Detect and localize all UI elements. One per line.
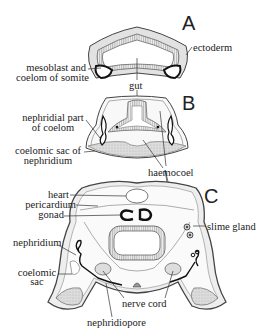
panel-b-section xyxy=(86,96,188,158)
panel-letter-b: B xyxy=(182,92,195,115)
label-mesoblast-line2: coelom of somite xyxy=(16,72,89,83)
label-gonad: gonad xyxy=(38,209,64,220)
label-haemocoel: haemocoel xyxy=(148,167,193,178)
label-gut: gut xyxy=(129,80,142,91)
somite-left xyxy=(96,66,112,79)
label-nephridium: nephridium xyxy=(13,237,61,248)
label-ectoderm: ectoderm xyxy=(193,42,232,53)
panel-a-section xyxy=(88,27,187,78)
somite-right xyxy=(164,66,180,79)
label-coelomic-sac-line2: sac xyxy=(16,276,58,287)
heart xyxy=(126,189,148,203)
label-slime-gland: slime gland xyxy=(207,221,256,232)
panel-letter-a: A xyxy=(182,12,195,35)
label-coelomic-sac-neph-line2: nephridium xyxy=(10,155,86,166)
label-nephridiopore: nephridiopore xyxy=(87,317,146,328)
label-nerve-cord: nerve cord xyxy=(122,298,167,309)
label-nephridial-line2: of coelom xyxy=(18,122,88,133)
panel-letter-c: C xyxy=(204,185,218,208)
